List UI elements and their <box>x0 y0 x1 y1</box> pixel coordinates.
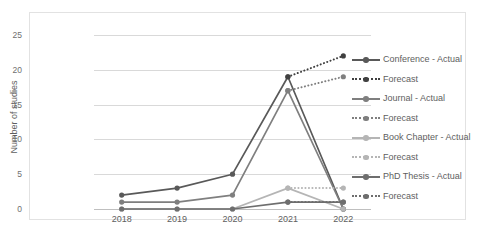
data-point <box>175 199 180 204</box>
legend-marker-icon <box>363 116 369 122</box>
series-conference-forecast <box>285 53 346 79</box>
data-point <box>119 206 124 211</box>
series-lines <box>94 35 371 209</box>
legend-item-label: Forecast <box>383 75 418 84</box>
data-point <box>285 88 290 93</box>
legend-key-icon <box>352 54 380 66</box>
data-point <box>341 206 346 211</box>
data-point <box>341 74 346 79</box>
data-point <box>285 74 290 79</box>
legend-marker-icon <box>363 96 369 102</box>
legend-item[interactable]: Forecast <box>352 187 492 207</box>
legend-marker-icon <box>363 194 369 200</box>
series-line <box>122 77 344 209</box>
legend-key-icon <box>352 190 380 202</box>
legend-item-label: Forecast <box>383 192 418 201</box>
legend-item-label: PhD Thesis - Actual <box>383 172 462 181</box>
legend-item-label: Journal - Actual <box>383 94 445 103</box>
legend-key-icon <box>352 151 380 163</box>
series-line <box>288 56 343 77</box>
x-axis-tick-label: 2018 <box>97 215 147 224</box>
y-axis-tick-label: 10 <box>0 135 22 144</box>
chart-legend: Conference - ActualForecastJournal - Act… <box>352 50 492 206</box>
legend-key-icon <box>352 112 380 124</box>
y-axis-tick-label: 20 <box>0 66 22 75</box>
legend-key-icon <box>352 171 380 183</box>
y-axis-tick-label: 0 <box>0 205 22 214</box>
legend-item-label: Conference - Actual <box>383 55 462 64</box>
y-axis-tick-label: 5 <box>0 170 22 179</box>
data-point <box>230 172 235 177</box>
y-axis-tick-label: 15 <box>0 101 22 110</box>
legend-item-label: Forecast <box>383 114 418 123</box>
data-point <box>119 192 124 197</box>
legend-item[interactable]: Book Chapter - Actual <box>352 128 492 148</box>
legend-marker-icon <box>363 57 369 63</box>
y-axis-tick-label: 25 <box>0 31 22 40</box>
x-axis-tick-label: 2019 <box>152 215 202 224</box>
data-point <box>341 53 346 58</box>
legend-item[interactable]: Forecast <box>352 109 492 129</box>
data-point <box>230 192 235 197</box>
legend-item[interactable]: Forecast <box>352 70 492 90</box>
legend-item[interactable]: Conference - Actual <box>352 50 492 70</box>
data-point <box>285 186 290 191</box>
x-axis-tick-label: 2022 <box>318 215 368 224</box>
data-point <box>230 206 235 211</box>
legend-marker-icon <box>363 174 369 180</box>
data-point <box>175 186 180 191</box>
legend-marker-icon <box>363 155 369 161</box>
data-point <box>175 206 180 211</box>
legend-item-label: Book Chapter - Actual <box>383 133 471 142</box>
legend-key-icon <box>352 73 380 85</box>
legend-marker-icon <box>363 77 369 83</box>
legend-marker-icon <box>363 135 369 141</box>
legend-key-icon <box>352 93 380 105</box>
x-axis-tick-label: 2020 <box>208 215 258 224</box>
data-point <box>341 186 346 191</box>
legend-item[interactable]: Forecast <box>352 148 492 168</box>
plot-area: 0510152025 20182019202020212022 <box>94 35 371 209</box>
x-axis-tick-label: 2021 <box>263 215 313 224</box>
series-journal-actual <box>119 88 346 212</box>
series-phd-thesis-forecast <box>285 199 346 204</box>
legend-item[interactable]: PhD Thesis - Actual <box>352 167 492 187</box>
data-point <box>285 199 290 204</box>
series-line <box>288 77 343 91</box>
legend-key-icon <box>352 132 380 144</box>
data-point <box>341 199 346 204</box>
legend-item[interactable]: Journal - Actual <box>352 89 492 109</box>
data-point <box>119 199 124 204</box>
legend-item-label: Forecast <box>383 153 418 162</box>
